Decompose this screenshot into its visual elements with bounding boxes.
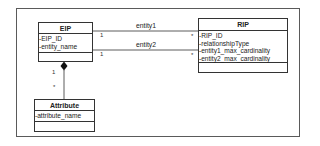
attribute: -RIP_ID (199, 32, 287, 40)
class-rip-attributes: -RIP_ID -relationshipType -entity1_max_c… (199, 31, 287, 63)
attribute: -EIP_ID (39, 35, 92, 43)
attribute: -entity2_max_cardinality (199, 55, 287, 63)
association-entity2-label: entity2 (136, 41, 156, 49)
multiplicity-composition-target: * (53, 84, 55, 91)
multiplicity-composition-source: 1 (52, 69, 55, 76)
association-entity1-label: entity1 (136, 22, 156, 30)
multiplicity-entity2-source: 1 (100, 51, 103, 58)
class-rip-name: RIP (199, 19, 287, 31)
attribute: -entity_name (39, 43, 92, 51)
composition-diamond-icon (61, 62, 68, 71)
class-attribute-name: Attribute (35, 100, 94, 111)
class-eip-attributes: -EIP_ID -entity_name (39, 34, 92, 53)
multiplicity-entity2-target: * (191, 52, 193, 59)
attribute: -entity1_max_cardinality (199, 47, 287, 55)
class-attribute[interactable]: Attribute -attribute_name (34, 99, 95, 132)
attribute: -relationshipType (199, 40, 287, 48)
class-attribute-attributes: -attribute_name (35, 111, 94, 122)
multiplicity-entity1-source: 1 (100, 32, 103, 39)
class-rip[interactable]: RIP -RIP_ID -relationshipType -entity1_m… (198, 18, 288, 73)
class-eip[interactable]: EIP -EIP_ID -entity_name (38, 22, 93, 62)
class-eip-name: EIP (39, 23, 92, 34)
attribute: -attribute_name (35, 112, 94, 120)
multiplicity-entity1-target: * (191, 33, 193, 40)
